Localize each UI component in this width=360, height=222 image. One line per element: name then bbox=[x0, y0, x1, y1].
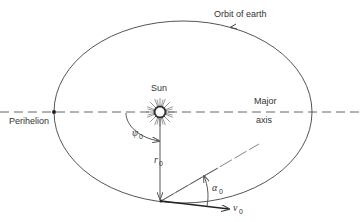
v0-symbol: v bbox=[233, 202, 238, 213]
alpha0-symbol: α bbox=[212, 182, 218, 193]
psi0-symbol: ψ bbox=[132, 127, 139, 138]
sun-label: Sun bbox=[151, 83, 167, 93]
psi0-subscript: 0 bbox=[139, 133, 143, 140]
r0-symbol: r bbox=[154, 154, 158, 165]
reference-solid-line bbox=[161, 168, 218, 201]
major-axis-label-line1: Major bbox=[254, 96, 277, 106]
alpha0-subscript: 0 bbox=[219, 188, 223, 195]
major-axis-label-line2: axis bbox=[256, 115, 273, 125]
r0-subscript: 0 bbox=[159, 160, 163, 167]
orbit-diagram: Orbit of earth Sun Perihelion Major axis… bbox=[0, 0, 360, 222]
orbit-direction-arrow-icon bbox=[230, 24, 237, 29]
orbit-label: Orbit of earth bbox=[214, 9, 267, 19]
perihelion-label: Perihelion bbox=[9, 116, 49, 126]
perihelion-point bbox=[52, 110, 56, 114]
v0-subscript: 0 bbox=[239, 208, 243, 215]
